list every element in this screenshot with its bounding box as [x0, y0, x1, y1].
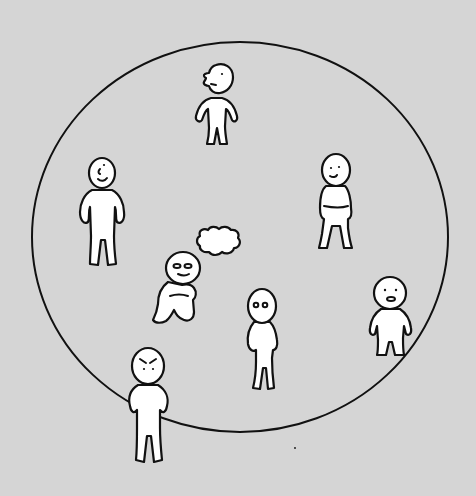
speck: [294, 447, 296, 449]
background: [0, 0, 476, 496]
thought-cloud: [197, 227, 240, 255]
illustration-canvas: [0, 0, 476, 496]
illustration-svg: [0, 0, 476, 496]
